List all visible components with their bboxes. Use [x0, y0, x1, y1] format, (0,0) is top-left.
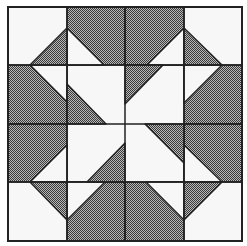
quilt-block [0, 0, 247, 246]
